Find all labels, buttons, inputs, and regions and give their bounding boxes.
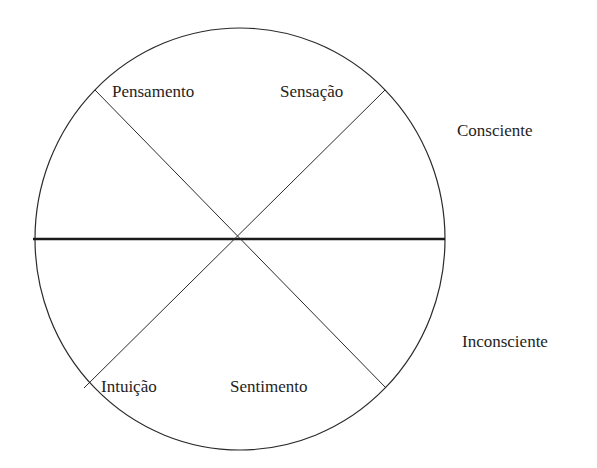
- label-sensacao: Sensação: [280, 83, 343, 100]
- label-inconsciente: Inconsciente: [462, 333, 548, 350]
- label-sentimento: Sentimento: [230, 378, 307, 395]
- label-consciente: Consciente: [457, 122, 533, 139]
- diagram-canvas: [0, 0, 597, 468]
- label-intuicao: Intuição: [101, 378, 157, 395]
- label-pensamento: Pensamento: [112, 83, 194, 100]
